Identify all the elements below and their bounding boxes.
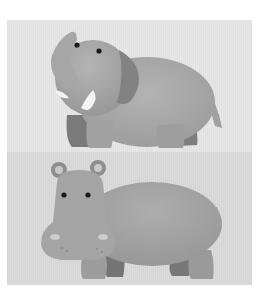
hippo-front-leg-2 xyxy=(188,250,213,279)
hippo-nostril-left xyxy=(50,234,60,240)
hippo-eye-right xyxy=(85,192,90,197)
elephant-front-leg-1 xyxy=(86,120,113,148)
elephant-eye-right xyxy=(96,48,101,53)
hippo-panel: hippopotamus xyxy=(7,152,252,285)
hippo-eye-left xyxy=(61,192,66,197)
elephant-front-leg-2 xyxy=(156,124,184,148)
elephant-illustration xyxy=(7,20,252,152)
hippo-nostril-right xyxy=(98,234,108,240)
hippo-illustration xyxy=(7,152,252,285)
elephant-eye-left xyxy=(74,42,79,47)
elephant-panel: elephant xyxy=(7,20,252,152)
